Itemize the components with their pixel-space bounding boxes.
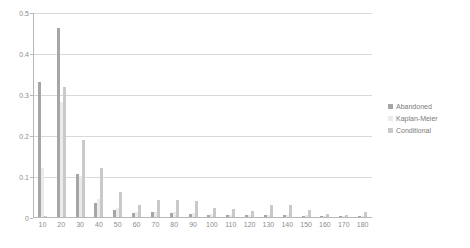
y-axis: 00.10.20.30.40.5 [0,0,33,248]
bar-group [151,200,160,217]
bar [289,205,292,217]
y-axis-tick-label: 0.2 [19,133,29,140]
bar-group [189,201,198,217]
bars-layer [33,13,372,218]
bar [63,87,66,217]
x-axis-tick-label: 10 [39,221,47,228]
x-axis-tick-label: 20 [57,221,65,228]
bar-group [76,140,85,217]
legend-item[interactable]: Conditional [388,125,438,135]
bar-group [302,210,311,217]
chart-legend: AbandonedKaplan-MeierConditional [388,101,438,135]
bar-group [57,28,66,217]
y-axis-tick-label: 0.3 [19,92,29,99]
legend-item-label: Abandoned [396,102,432,111]
bar [195,201,198,217]
legend-item[interactable]: Abandoned [388,101,438,111]
bar [345,215,348,217]
y-axis-tick-label: 0.5 [19,10,29,17]
bar [157,200,160,217]
x-axis-tick-label: 140 [281,221,293,228]
x-axis-tick-label: 90 [189,221,197,228]
bar [82,140,85,217]
x-axis-tick-label: 110 [225,221,236,228]
bar [176,200,179,217]
bar-group [339,215,348,217]
y-axis-tick-label: 0.4 [19,51,29,58]
x-axis-tick-label: 70 [152,221,160,228]
legend-swatch-icon [388,128,393,133]
legend-swatch-icon [388,104,393,109]
x-axis-tick-label: 40 [95,221,103,228]
bar-group [113,192,122,217]
plot-area [33,13,372,218]
bar-group [170,200,179,217]
legend-item-label: Kaplan-Meier [396,114,438,123]
bar [232,209,235,217]
bar [213,208,216,217]
bar-group [245,211,254,217]
y-axis-tick-label: 0.1 [19,174,29,181]
y-axis-tick-label: 0 [25,215,29,222]
bar [364,212,367,217]
x-axis-tick-label: 60 [133,221,141,228]
x-axis-tick-label: 180 [357,221,369,228]
bar [41,168,44,217]
x-axis-tick-label: 120 [244,221,256,228]
bar [44,216,47,217]
y-axis-tick-mark [30,218,33,219]
bar [326,214,329,217]
bar-group [358,212,367,217]
bar [308,210,311,217]
bar [138,205,141,217]
x-axis-tick-label: 130 [263,221,275,228]
legend-item-label: Conditional [396,126,431,135]
bar [100,168,103,217]
x-axis-tick-label: 50 [114,221,122,228]
x-axis-tick-label: 150 [300,221,312,228]
bar [119,192,122,217]
bar-group [320,214,329,217]
bar-group [283,205,292,217]
x-axis-tick-label: 170 [338,221,350,228]
legend-swatch-icon [388,116,393,121]
bar-group [264,205,273,217]
bar [251,211,254,217]
legend-item[interactable]: Kaplan-Meier [388,113,438,123]
bar-group [94,168,103,217]
bar-group [207,208,216,217]
bar-group [132,205,141,217]
bar [270,205,273,217]
bar-group [38,82,47,217]
x-axis-tick-label: 30 [76,221,84,228]
x-axis-tick-label: 80 [170,221,178,228]
x-axis-tick-label: 100 [206,221,218,228]
bar-group [226,209,235,217]
x-axis-tick-label: 160 [319,221,331,228]
chart-container: 00.10.20.30.40.5 10203040506070809010011… [0,0,470,248]
x-axis: 1020304050607080901001101201301401501601… [33,221,372,235]
